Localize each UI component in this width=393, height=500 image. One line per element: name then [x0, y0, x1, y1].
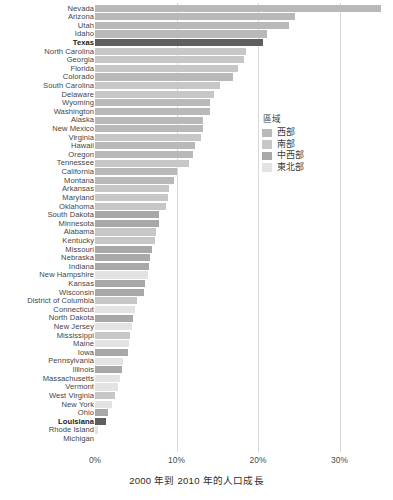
- bar-oregon: [95, 151, 193, 158]
- bar-track: [95, 125, 203, 132]
- bar-track: [95, 289, 144, 296]
- bar-wisconsin: [95, 289, 144, 296]
- legend-swatch-south: [262, 140, 272, 149]
- bar-missouri: [95, 246, 152, 253]
- bar-utah: [95, 22, 289, 29]
- bar-west-virginia: [95, 392, 115, 399]
- bar-track: [95, 366, 122, 373]
- bar-track: [95, 117, 203, 124]
- bar-ohio: [95, 409, 108, 416]
- bar-track: [95, 418, 106, 425]
- bar-track: [95, 358, 123, 365]
- bar-track: [95, 340, 129, 347]
- bar-louisiana: [95, 418, 106, 425]
- legend-label-northeast: 東北部: [277, 162, 304, 173]
- bar-mississippi: [95, 332, 130, 339]
- bar-track: [95, 263, 149, 270]
- bar-connecticut: [95, 306, 135, 313]
- bar-track: [95, 82, 220, 89]
- bar-track: [95, 65, 238, 72]
- bar-track: [95, 426, 98, 433]
- bar-district-of-columbia: [95, 297, 137, 304]
- bar-track: [95, 48, 246, 55]
- bar-delaware: [95, 91, 214, 98]
- bar-track: [95, 203, 166, 210]
- bar-maine: [95, 340, 129, 347]
- legend-item-west[interactable]: 西部: [262, 127, 372, 139]
- legend-label-west: 西部: [277, 127, 295, 138]
- bar-track: [95, 73, 233, 80]
- legend-swatch-west: [262, 129, 272, 138]
- bar-washington: [95, 108, 210, 115]
- bar-new-mexico: [95, 125, 203, 132]
- bar-california: [95, 168, 177, 175]
- bar-massachusetts: [95, 375, 120, 382]
- bar-track: [95, 254, 150, 261]
- bar-minnesota: [95, 220, 159, 227]
- bar-track: [95, 392, 115, 399]
- bar-track: [95, 142, 195, 149]
- bar-arizona: [95, 13, 295, 20]
- bar-florida: [95, 65, 238, 72]
- bar-track: [95, 297, 137, 304]
- bar-track: [95, 168, 177, 175]
- legend-item-northeast[interactable]: 東北部: [262, 162, 372, 174]
- bar-pennsylvania: [95, 358, 123, 365]
- x-axis-title: 2000 年到 2010 年的人口成長: [0, 475, 393, 487]
- bar-label-michigan: Michigan: [0, 434, 94, 443]
- bar-track: [95, 280, 145, 287]
- bar-track: [95, 108, 210, 115]
- population-growth-bar-chart: NevadaArizonaUtahIdahoTexasNorth Carolin…: [0, 0, 393, 500]
- bar-arkansas: [95, 185, 169, 192]
- legend: 區域 西部南部中西部東北部: [262, 114, 372, 173]
- bar-track: [95, 409, 108, 416]
- bar-track: [95, 13, 295, 20]
- bar-track: [95, 315, 133, 322]
- bar-track: [95, 5, 381, 12]
- legend-item-midwest[interactable]: 中西部: [262, 150, 372, 162]
- bar-rhode-island: [95, 426, 98, 433]
- bar-track: [95, 211, 159, 218]
- bar-track: [95, 306, 135, 313]
- legend-swatch-midwest: [262, 152, 272, 161]
- bar-texas: [95, 39, 263, 46]
- bar-track: [95, 271, 148, 278]
- bar-kansas: [95, 280, 145, 287]
- bar-track: [95, 30, 267, 37]
- bar-tennessee: [95, 160, 189, 167]
- bar-track: [95, 349, 128, 356]
- bar-alaska: [95, 117, 203, 124]
- bar-track: [95, 383, 118, 390]
- bar-new-york: [95, 401, 112, 408]
- bar-track: [95, 160, 189, 167]
- bar-track: [95, 220, 159, 227]
- bar-hawaii: [95, 142, 195, 149]
- legend-title: 區域: [262, 114, 372, 125]
- legend-label-midwest: 中西部: [277, 150, 304, 161]
- bar-track: [95, 134, 201, 141]
- bar-track: [95, 194, 168, 201]
- bar-south-carolina: [95, 82, 220, 89]
- bar-vermont: [95, 383, 118, 390]
- bar-indiana: [95, 263, 149, 270]
- bar-nevada: [95, 5, 381, 12]
- bar-iowa: [95, 349, 128, 356]
- bar-oklahoma: [95, 203, 166, 210]
- bar-track: [95, 99, 210, 106]
- bar-track: [95, 237, 155, 244]
- bar-track: [95, 39, 263, 46]
- bar-track: [95, 185, 169, 192]
- bar-virginia: [95, 134, 201, 141]
- bar-track: [95, 91, 214, 98]
- bar-colorado: [95, 73, 233, 80]
- bar-track: [95, 151, 193, 158]
- bar-new-hampshire: [95, 271, 148, 278]
- legend-item-south[interactable]: 南部: [262, 139, 372, 151]
- bar-montana: [95, 177, 174, 184]
- bar-track: [95, 177, 174, 184]
- bar-track: [95, 375, 120, 382]
- bar-nebraska: [95, 254, 150, 261]
- bar-maryland: [95, 194, 168, 201]
- x-tick-20%: 20%: [250, 455, 267, 465]
- bar-kentucky: [95, 237, 155, 244]
